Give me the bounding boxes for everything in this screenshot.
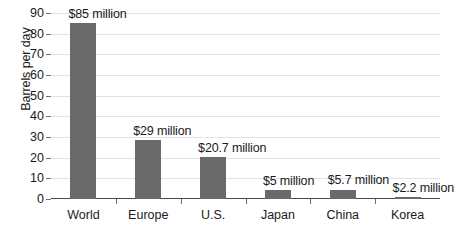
y-axis-tick	[46, 75, 51, 76]
x-axis-tick	[375, 199, 376, 204]
y-axis-tick	[46, 178, 51, 179]
x-axis-tick	[116, 199, 117, 204]
plot-area: 0102030405060708090$85 millionWorld$29 m…	[51, 13, 440, 199]
x-axis-tick	[310, 199, 311, 204]
gridline	[51, 34, 440, 35]
y-axis-spine	[50, 13, 51, 199]
y-axis-tick-label: 10	[30, 172, 44, 185]
bar	[135, 140, 161, 199]
gridline	[51, 54, 440, 55]
bar-value-label: $85 million	[68, 8, 126, 21]
gridline	[51, 96, 440, 97]
y-axis-tick	[46, 158, 51, 159]
y-axis-tick	[46, 34, 51, 35]
y-axis-tick-label: 0	[37, 193, 44, 206]
x-axis-tick	[181, 199, 182, 204]
x-axis-category-label: Japan	[261, 209, 295, 222]
x-axis-category-label: Korea	[391, 209, 424, 222]
bar-value-label: $29 million	[133, 125, 191, 138]
bar-value-label: $5.7 million	[328, 174, 389, 187]
bar	[395, 197, 421, 199]
y-axis-tick-label: 60	[30, 69, 44, 82]
x-axis-category-label: China	[326, 209, 359, 222]
y-axis-tick-label: 20	[30, 151, 44, 164]
x-axis-tick	[246, 199, 247, 204]
gridline	[51, 75, 440, 76]
x-axis-category-label: Europe	[128, 209, 168, 222]
y-axis-tick-label: 70	[30, 48, 44, 61]
gridline	[51, 158, 440, 159]
y-axis-tick-label: 50	[30, 89, 44, 102]
gridline	[51, 137, 440, 138]
y-axis-tick	[46, 54, 51, 55]
y-axis-tick	[46, 96, 51, 97]
bar-value-label: $5 million	[263, 175, 314, 188]
bar-value-label: $20.7 million	[198, 142, 266, 155]
gridline	[51, 116, 440, 117]
x-axis-category-label: World	[67, 209, 99, 222]
bar	[265, 190, 291, 199]
x-axis-category-label: U.S.	[201, 209, 225, 222]
y-axis-tick	[46, 13, 51, 14]
y-axis-tick-label: 80	[30, 27, 44, 40]
bar	[70, 23, 96, 199]
bar	[200, 157, 226, 199]
bar	[330, 190, 356, 200]
y-axis-tick-label: 40	[30, 110, 44, 123]
y-axis-tick	[46, 137, 51, 138]
bar-value-label: $2.2 million	[393, 182, 454, 195]
y-axis-tick	[46, 199, 51, 200]
y-axis-tick-label: 30	[30, 131, 44, 144]
y-axis-tick	[46, 116, 51, 117]
y-axis-tick-label: 90	[30, 7, 44, 20]
